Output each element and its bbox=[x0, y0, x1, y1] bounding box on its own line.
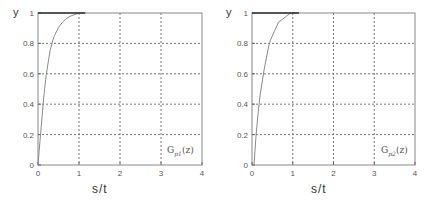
y-tick-label: 0.6 bbox=[237, 70, 249, 79]
plot-area-gp2: 0123400.20.40.60.81 bbox=[213, 0, 426, 207]
y-tick-label: 0.2 bbox=[237, 131, 249, 140]
x-tick-label: 3 bbox=[372, 169, 377, 178]
series-line bbox=[38, 13, 85, 165]
legend-gp1: Gp1(z) bbox=[167, 145, 194, 157]
x-tick-label: 3 bbox=[159, 169, 164, 178]
y-tick-label: 0.8 bbox=[237, 39, 249, 48]
x-tick-label: 0 bbox=[250, 169, 255, 178]
x-tick-label: 1 bbox=[77, 169, 82, 178]
series-line bbox=[252, 13, 299, 165]
x-tick-label: 4 bbox=[200, 169, 205, 178]
chart-panel-gp2: 0123400.20.40.60.81 y s/t Gp2(z) bbox=[213, 0, 426, 207]
y-axis-label: y bbox=[13, 6, 19, 18]
x-tick-label: 2 bbox=[118, 169, 123, 178]
y-tick-label: 0 bbox=[244, 161, 249, 170]
x-tick-label: 2 bbox=[331, 169, 336, 178]
x-axis-label: s/t bbox=[311, 182, 327, 196]
y-tick-label: 1 bbox=[244, 9, 249, 18]
x-tick-label: 0 bbox=[36, 169, 41, 178]
x-axis-label: s/t bbox=[92, 182, 108, 196]
y-tick-label: 0.2 bbox=[23, 131, 35, 140]
legend-gp2: Gp2(z) bbox=[381, 145, 408, 157]
y-tick-label: 1 bbox=[30, 9, 35, 18]
plot-area-gp1: 0123400.20.40.60.81 bbox=[0, 0, 213, 207]
x-tick-label: 1 bbox=[291, 169, 296, 178]
y-axis-label: y bbox=[226, 6, 232, 18]
y-tick-label: 0.6 bbox=[23, 70, 35, 79]
x-tick-label: 4 bbox=[413, 169, 418, 178]
y-tick-label: 0.4 bbox=[237, 100, 249, 109]
y-tick-label: 0.4 bbox=[23, 100, 35, 109]
chart-panel-gp1: 0123400.20.40.60.81 y s/t Gp1(z) bbox=[0, 0, 213, 207]
y-tick-label: 0 bbox=[30, 161, 35, 170]
y-tick-label: 0.8 bbox=[23, 39, 35, 48]
